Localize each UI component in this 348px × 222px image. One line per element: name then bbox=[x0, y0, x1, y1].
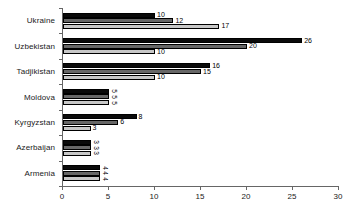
bar-uzbekistan-series-1 bbox=[63, 38, 302, 43]
bar-group-azerbaijan: 333 bbox=[63, 140, 338, 156]
bar-row: 3 bbox=[63, 151, 338, 156]
bar-kyrgyzstan-series-2 bbox=[63, 120, 118, 125]
plot-area: 101217262010161510555863333444 bbox=[62, 8, 338, 186]
bar-kyrgyzstan-series-1 bbox=[63, 114, 137, 119]
x-tick bbox=[292, 186, 293, 190]
bar-armenia-series-3 bbox=[63, 176, 100, 181]
bar-value-label: 10 bbox=[157, 48, 165, 56]
x-tick bbox=[200, 186, 201, 190]
bar-value-label: 5 bbox=[111, 101, 118, 105]
x-tick-label: 25 bbox=[288, 192, 297, 202]
bar-azerbaijan-series-2 bbox=[63, 145, 91, 150]
bar-azerbaijan-series-1 bbox=[63, 140, 91, 145]
bar-row: 16 bbox=[63, 63, 338, 68]
bar-row: 17 bbox=[63, 24, 338, 29]
bar-row: 3 bbox=[63, 140, 338, 145]
category-label-azerbaijan: Azerbaijan bbox=[16, 143, 55, 152]
bar-row: 4 bbox=[63, 165, 338, 170]
bar-value-label: 5 bbox=[111, 90, 118, 94]
bar-ukraine-series-2 bbox=[63, 18, 173, 23]
bar-uzbekistan-series-3 bbox=[63, 49, 155, 54]
bar-row: 5 bbox=[63, 100, 338, 105]
bar-ukraine-series-1 bbox=[63, 13, 155, 18]
x-tick-label: 20 bbox=[242, 192, 251, 202]
bar-row: 4 bbox=[63, 176, 338, 181]
bar-group-ukraine: 101217 bbox=[63, 13, 338, 29]
bar-row: 20 bbox=[63, 44, 338, 49]
category-label-tadjikistan: Tadjikistan bbox=[17, 67, 55, 76]
y-tick bbox=[59, 161, 62, 162]
category-label-kyrgyzstan: Kyrgyzstan bbox=[14, 118, 55, 127]
bar-group-moldova: 555 bbox=[63, 89, 338, 105]
bar-group-armenia: 444 bbox=[63, 165, 338, 181]
category-label-armenia: Armenia bbox=[25, 169, 56, 178]
x-tick bbox=[108, 186, 109, 190]
bar-row: 10 bbox=[63, 49, 338, 54]
bar-value-label: 10 bbox=[157, 73, 165, 81]
x-tick-label: 30 bbox=[334, 192, 343, 202]
category-label-ukraine: Ukraine bbox=[27, 16, 55, 25]
bar-value-label: 3 bbox=[93, 124, 97, 132]
bar-value-label: 4 bbox=[102, 177, 109, 181]
bar-group-tadjikistan: 161510 bbox=[63, 63, 338, 79]
bar-row: 3 bbox=[63, 126, 338, 131]
x-tick-label: 10 bbox=[150, 192, 159, 202]
x-tick-label: 15 bbox=[196, 192, 205, 202]
bar-value-label: 4 bbox=[102, 171, 109, 175]
x-tick bbox=[154, 186, 155, 190]
bar-group-uzbekistan: 262010 bbox=[63, 38, 338, 54]
x-axis-tick-labels: 051015202530 bbox=[62, 192, 338, 204]
y-tick bbox=[59, 33, 62, 34]
x-tick bbox=[246, 186, 247, 190]
bar-value-label: 5 bbox=[111, 95, 118, 99]
bar-kyrgyzstan-series-3 bbox=[63, 126, 91, 131]
bar-tadjikistan-series-3 bbox=[63, 75, 155, 80]
x-tick-label: 5 bbox=[106, 192, 110, 202]
y-tick bbox=[59, 110, 62, 111]
x-tick bbox=[338, 186, 339, 190]
bar-ukraine-series-3 bbox=[63, 24, 219, 29]
bar-tadjikistan-series-1 bbox=[63, 63, 210, 68]
bar-value-label: 17 bbox=[221, 22, 229, 30]
bar-row: 8 bbox=[63, 114, 338, 119]
bar-row: 6 bbox=[63, 120, 338, 125]
category-label-uzbekistan: Uzbekistan bbox=[14, 42, 55, 51]
bar-group-kyrgyzstan: 863 bbox=[63, 114, 338, 130]
bar-row: 5 bbox=[63, 89, 338, 94]
category-axis-labels: UkraineUzbekistanTadjikistanMoldovaKyrgy… bbox=[0, 8, 58, 186]
x-tick-label: 0 bbox=[60, 192, 64, 202]
bar-azerbaijan-series-3 bbox=[63, 151, 91, 156]
bar-row: 15 bbox=[63, 69, 338, 74]
bar-tadjikistan-series-2 bbox=[63, 69, 201, 74]
bar-row: 4 bbox=[63, 171, 338, 176]
bar-value-label: 3 bbox=[93, 146, 100, 150]
bar-chart: UkraineUzbekistanTadjikistanMoldovaKyrgy… bbox=[0, 0, 348, 222]
bar-row: 10 bbox=[63, 75, 338, 80]
bar-armenia-series-1 bbox=[63, 165, 100, 170]
bar-moldova-series-2 bbox=[63, 94, 109, 99]
y-tick bbox=[59, 135, 62, 136]
bar-armenia-series-2 bbox=[63, 171, 100, 176]
bar-uzbekistan-series-2 bbox=[63, 44, 247, 49]
x-tick bbox=[62, 186, 63, 190]
y-tick bbox=[59, 84, 62, 85]
x-axis-ticks bbox=[62, 186, 338, 190]
bar-value-label: 4 bbox=[102, 166, 109, 170]
bar-row: 10 bbox=[63, 13, 338, 18]
category-label-moldova: Moldova bbox=[24, 93, 55, 102]
bar-value-label: 3 bbox=[93, 152, 100, 156]
bar-value-label: 3 bbox=[93, 140, 100, 144]
y-tick bbox=[59, 8, 62, 9]
bar-row: 3 bbox=[63, 145, 338, 150]
bar-row: 26 bbox=[63, 38, 338, 43]
bar-row: 12 bbox=[63, 18, 338, 23]
bar-moldova-series-1 bbox=[63, 89, 109, 94]
bar-moldova-series-3 bbox=[63, 100, 109, 105]
bar-row: 5 bbox=[63, 94, 338, 99]
y-tick bbox=[59, 59, 62, 60]
